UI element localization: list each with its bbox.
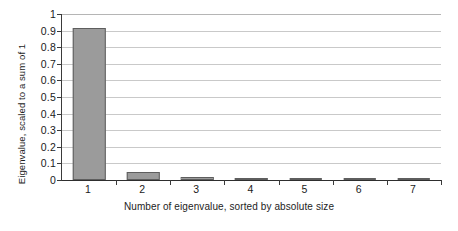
y-axis-tick-labels: 00.10.20.30.40.50.60.70.80.91 <box>30 14 56 180</box>
bar-slot <box>116 14 170 180</box>
bar-slot <box>224 14 278 180</box>
y-tick-label: 1 <box>50 8 56 20</box>
y-tick-label: 0.9 <box>41 25 56 37</box>
y-tick-mark <box>57 180 62 181</box>
bar <box>344 178 376 180</box>
y-tick-label: 0.5 <box>41 91 56 103</box>
bar <box>235 178 267 180</box>
x-tick-mark <box>441 180 442 185</box>
bar-series <box>62 14 441 180</box>
bar <box>398 178 430 180</box>
y-tick-label: 0.7 <box>41 58 56 70</box>
x-tick-label: 4 <box>247 183 253 195</box>
x-tick-label: 6 <box>356 183 362 195</box>
bar <box>73 28 105 180</box>
x-tick-label: 2 <box>139 183 145 195</box>
bar-slot <box>333 14 387 180</box>
bar-slot <box>170 14 224 180</box>
bar-slot <box>279 14 333 180</box>
x-axis-title: Number of eigenvalue, sorted by absolute… <box>0 201 458 212</box>
y-tick-label: 0 <box>50 174 56 186</box>
bar <box>289 178 321 180</box>
y-tick-label: 0.3 <box>41 124 56 136</box>
chart-figure: Eigenvalue, scaled to a sum of 1 00.10.2… <box>0 0 458 231</box>
y-tick-label: 0.8 <box>41 41 56 53</box>
bar-slot <box>387 14 441 180</box>
x-tick-label: 7 <box>410 183 416 195</box>
y-axis-title: Eigenvalue, scaled to a sum of 1 <box>14 28 30 200</box>
y-tick-label: 0.2 <box>41 141 56 153</box>
y-tick-label: 0.6 <box>41 74 56 86</box>
x-axis-tick-labels: 1234567 <box>61 183 440 199</box>
x-tick-label: 3 <box>193 183 199 195</box>
x-tick-label: 5 <box>302 183 308 195</box>
y-tick-label: 0.1 <box>41 157 56 169</box>
bar <box>127 172 159 180</box>
bar-slot <box>62 14 116 180</box>
bar <box>181 177 213 180</box>
x-tick-label: 1 <box>85 183 91 195</box>
plot-area <box>61 14 441 181</box>
y-tick-label: 0.4 <box>41 108 56 120</box>
